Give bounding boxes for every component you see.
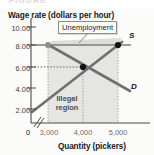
unemployment-annotation-label: Unemployment bbox=[58, 21, 117, 34]
figure-container: FIGURE Wage rate (dollars per hour) Quan… bbox=[0, 0, 154, 155]
unemployment-band bbox=[48, 38, 122, 45]
point-quantity-supplied bbox=[115, 42, 121, 48]
illegal-region-label: Illegal region bbox=[52, 95, 82, 112]
point-quantity-demanded bbox=[45, 42, 51, 48]
demand-curve-label: D bbox=[131, 82, 137, 91]
illegal-region-line-2: region bbox=[52, 104, 82, 113]
supply-curve-label: S bbox=[129, 31, 134, 40]
point-equilibrium bbox=[80, 64, 86, 70]
axis-break-mark-1 bbox=[34, 117, 41, 127]
